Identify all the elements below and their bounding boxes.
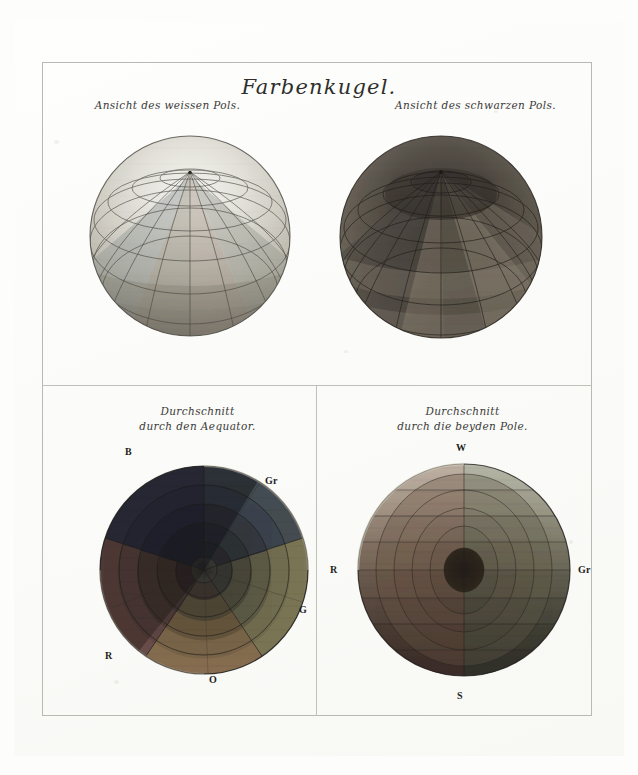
label-poles-red: R (330, 564, 338, 575)
label-equator-red: R (105, 650, 113, 661)
label-poles-black: S (457, 690, 463, 701)
figure-white-pole-sphere (86, 132, 294, 340)
plate-page: Farbenkugel. Ansicht des weissen Pols. A… (0, 0, 638, 775)
figure-black-pole-sphere (336, 132, 546, 342)
frame-divider-vertical (316, 385, 317, 716)
figure-equator-section (98, 452, 310, 688)
caption-poles-line1: Durchschnitt (345, 404, 580, 419)
caption-equator-section: Durchschnitt durch den Aequator. (90, 404, 305, 434)
caption-poles-section: Durchschnitt durch die beyden Pole. (345, 404, 580, 434)
white-pole-point (188, 171, 192, 175)
label-poles-white: W (456, 442, 466, 453)
label-equator-green: Gr (265, 475, 278, 486)
label-equator-blue: B (125, 446, 132, 457)
caption-equator-line2: durch den Aequator. (90, 419, 305, 434)
black-pole-point (439, 170, 443, 174)
label-poles-green: Gr (578, 564, 591, 575)
label-equator-yellow: G (299, 604, 307, 615)
frame-divider-horizontal (42, 385, 592, 386)
caption-white-pole: Ansicht des weissen Pols. (60, 98, 275, 113)
figure-poles-section (355, 452, 573, 688)
caption-poles-line2: durch die beyden Pole. (345, 419, 580, 434)
caption-black-pole: Ansicht des schwarzen Pols. (368, 98, 583, 113)
label-equator-orange: O (209, 674, 217, 685)
caption-equator-line1: Durchschnitt (90, 404, 305, 419)
